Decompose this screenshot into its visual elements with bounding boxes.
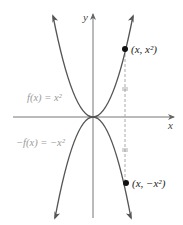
point-upper-label: (x, x²) — [131, 43, 157, 56]
curve-f-label: f(x) = x² — [27, 92, 63, 104]
point-lower-label: (x, −x²) — [132, 177, 166, 190]
reflection-diagram: y x f(x) = x² −f(x) = −x² (x, x²) (x, −x… — [0, 0, 183, 225]
x-axis-label: x — [167, 119, 173, 131]
point-upper — [122, 46, 128, 52]
point-lower — [123, 180, 129, 186]
curve-neg-f-label: −f(x) = −x² — [16, 137, 66, 149]
y-axis-label: y — [82, 11, 88, 23]
